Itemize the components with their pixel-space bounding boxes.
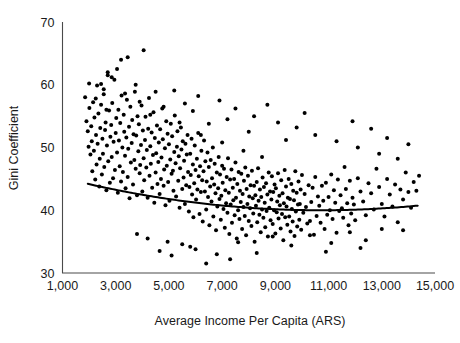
data-point: [213, 162, 217, 166]
data-point: [175, 129, 179, 133]
data-point: [233, 107, 237, 111]
data-point: [159, 177, 163, 181]
data-point: [211, 215, 215, 219]
data-point: [122, 130, 126, 134]
data-point: [233, 213, 237, 217]
y-axis-title: Gini Coefficient: [7, 105, 21, 190]
data-point: [228, 257, 232, 261]
data-point: [325, 213, 329, 217]
data-point: [111, 176, 115, 180]
data-point: [119, 58, 123, 62]
data-point: [157, 140, 161, 144]
data-point: [87, 81, 91, 85]
data-point: [193, 144, 197, 148]
data-point: [295, 191, 299, 195]
data-point: [199, 149, 203, 153]
data-point: [104, 120, 108, 124]
x-tick-label: 3,000: [100, 279, 131, 293]
data-point: [380, 227, 384, 231]
data-point: [249, 224, 253, 228]
data-point: [153, 136, 157, 140]
data-point: [105, 144, 109, 148]
data-point: [129, 161, 133, 165]
data-point: [256, 166, 260, 170]
data-point: [241, 192, 245, 196]
data-point: [247, 219, 251, 223]
data-point: [123, 154, 127, 158]
data-point: [321, 199, 325, 203]
data-point: [275, 210, 279, 214]
data-point: [206, 195, 210, 199]
data-point: [225, 175, 229, 179]
data-point: [257, 199, 261, 203]
data-point: [238, 189, 242, 193]
data-point: [159, 156, 163, 160]
data-point: [163, 203, 167, 207]
data-point: [90, 169, 94, 173]
data-point: [188, 152, 192, 156]
data-point: [123, 92, 127, 96]
data-point: [168, 157, 172, 161]
y-tick-label: 70: [41, 16, 55, 30]
data-point: [345, 201, 349, 205]
data-point: [191, 109, 195, 113]
data-point: [335, 231, 339, 235]
data-point: [166, 240, 170, 244]
data-point: [401, 228, 405, 232]
data-point: [324, 250, 328, 254]
data-point: [204, 208, 208, 212]
data-point: [277, 216, 281, 220]
data-point: [221, 207, 225, 211]
data-point: [122, 113, 126, 117]
data-point: [257, 213, 261, 217]
data-point: [118, 164, 122, 168]
data-point: [253, 240, 257, 244]
data-point: [412, 180, 416, 184]
data-point: [182, 159, 186, 163]
data-point: [210, 176, 214, 180]
data-point: [103, 128, 107, 132]
data-point: [133, 90, 137, 94]
data-point: [154, 171, 158, 175]
data-point: [194, 168, 198, 172]
data-point: [239, 200, 243, 204]
data-point: [199, 133, 203, 137]
data-point: [217, 155, 221, 159]
data-point: [282, 201, 286, 205]
data-point: [245, 187, 249, 191]
data-point: [201, 220, 205, 224]
data-point: [183, 142, 187, 146]
data-point: [192, 181, 196, 185]
data-point: [293, 234, 297, 238]
data-point: [171, 189, 175, 193]
data-point: [101, 152, 105, 156]
data-point: [339, 193, 343, 197]
data-point: [96, 142, 100, 146]
data-point: [130, 118, 134, 122]
data-point: [396, 220, 400, 224]
data-point: [178, 206, 182, 210]
data-point: [308, 219, 312, 223]
data-point: [90, 139, 94, 143]
data-point: [115, 151, 119, 155]
data-point: [150, 130, 154, 134]
data-point: [374, 167, 378, 171]
data-point: [154, 90, 158, 94]
data-point: [291, 220, 295, 224]
data-point: [86, 129, 90, 133]
data-point: [110, 101, 114, 105]
data-point: [271, 222, 275, 226]
data-point: [190, 137, 194, 141]
data-point: [396, 157, 400, 161]
data-point: [312, 233, 316, 237]
data-point: [388, 193, 392, 197]
data-point: [348, 230, 352, 234]
data-point: [144, 115, 148, 119]
data-point: [299, 228, 303, 232]
data-point: [208, 184, 212, 188]
data-point: [265, 193, 269, 197]
data-point: [364, 213, 368, 217]
data-point: [214, 228, 218, 232]
data-point: [124, 186, 128, 190]
data-point: [273, 183, 277, 187]
